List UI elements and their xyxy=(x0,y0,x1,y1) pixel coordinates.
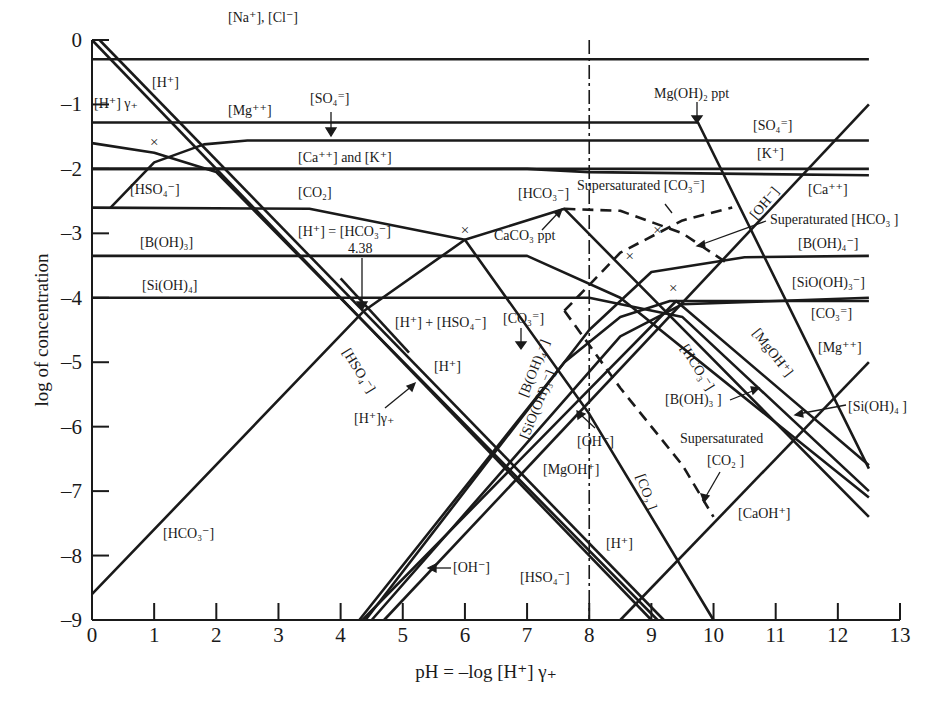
y-tick-label: –3 xyxy=(60,221,82,245)
crossover-marker: × xyxy=(625,248,633,264)
crossover-marker: × xyxy=(669,280,677,296)
x-tick-label: 8 xyxy=(584,623,595,647)
x-tick-label: 7 xyxy=(522,623,533,647)
x-tick-label: 4 xyxy=(335,623,346,647)
curve-line xyxy=(92,256,869,498)
x-tick-label: 13 xyxy=(890,623,911,647)
x-tick-label: 0 xyxy=(87,623,98,647)
label-hco3-top: [HCO₃⁻] xyxy=(518,186,569,201)
x-tick-label: 11 xyxy=(766,623,786,647)
x-tick-label: 2 xyxy=(211,623,222,647)
arrow-co3-mid-head xyxy=(516,342,526,349)
label-caoh: [CaOH⁺] xyxy=(738,506,791,521)
label-oh-mid: [OH⁻] xyxy=(577,434,614,449)
x-tick-label: 1 xyxy=(149,623,160,647)
label-h-gamma-top: [H⁺] γ₊ xyxy=(94,96,138,111)
arrow-h-gamma-mid xyxy=(385,386,412,408)
label-mgoh2-ppt: Mg(OH)₂ ppt xyxy=(654,86,729,102)
y-tick-label: –4 xyxy=(60,286,83,310)
y-tick-label: –6 xyxy=(60,415,82,439)
arrow-so4-head xyxy=(326,128,336,136)
label-hco3-diag: [HCO₃⁻] xyxy=(677,342,717,393)
label-so4-right: [SO₄⁼] xyxy=(753,118,793,133)
label-co3-mid: [CO₃⁼] xyxy=(503,311,544,326)
label-h-top: [H⁺] xyxy=(152,75,179,90)
x-tick-label: 5 xyxy=(398,623,409,647)
arrow-supersat-hco3-head xyxy=(697,241,705,248)
label-sioh4-left: [Si(OH)₄] xyxy=(142,278,197,294)
curve-line xyxy=(620,362,869,620)
label-na-cl: [Na⁺], [Cl⁻] xyxy=(228,10,298,25)
y-tick-label: –1 xyxy=(60,92,82,116)
label-so4-top: [SO₄⁼] xyxy=(310,91,350,106)
x-tick-label: 9 xyxy=(646,623,657,647)
label-hso4-low: [HSO₄⁻] xyxy=(520,570,570,585)
arrow-sioh4-right-head xyxy=(795,410,803,417)
label-mg: [Mg⁺⁺] xyxy=(228,103,272,118)
label-hco3-low: [HCO₃⁻] xyxy=(163,526,214,541)
y-tick-label: –2 xyxy=(60,157,82,181)
y-tick-label: –7 xyxy=(60,479,82,503)
label-supersat-co3: Supersaturated [CO₃⁼] xyxy=(577,178,705,193)
x-tick-label: 12 xyxy=(827,623,848,647)
label-hso4-top: [HSO₄⁻] xyxy=(130,182,180,197)
label-co2-top: [CO₂] xyxy=(298,185,332,200)
x-axis-title: pH = –log [H⁺] γ₊ xyxy=(415,661,557,682)
y-tick-label: –5 xyxy=(60,350,82,374)
label-h-gamma-mid: [H⁺]γ₊ xyxy=(354,411,394,426)
label-h-eq-hco3: [H⁺] = [HCO₃⁻] xyxy=(298,224,391,239)
label-ca-k: [Ca⁺⁺] and [K⁺] xyxy=(298,150,392,165)
label-sioh3-right: [SiO(OH)₃⁻] xyxy=(792,275,865,291)
crossover-marker: × xyxy=(653,222,661,238)
x-tick-label: 10 xyxy=(703,623,724,647)
arrow-supersat-co2 xyxy=(705,472,720,498)
speciation-chart: 0123456789101112130–1–2–3–4–5–6–7–8–9 ××… xyxy=(0,0,946,712)
label-oh-low: [OH⁻] xyxy=(453,560,490,575)
label-supersat-co2-1: Supersaturated xyxy=(680,431,763,446)
label-ca-right: [Ca⁺⁺] xyxy=(808,182,848,197)
x-tick-label: 6 xyxy=(460,623,471,647)
crossover-marker: × xyxy=(461,222,469,238)
y-tick-label: 0 xyxy=(72,28,83,52)
label-co3-right: [CO₃⁼] xyxy=(811,306,852,321)
label-hso4-diag: [HSO₄⁻] xyxy=(339,346,378,396)
label-boh3-left: [B(OH)₃] xyxy=(140,235,193,251)
y-tick-label: –8 xyxy=(60,544,82,568)
y-axis-title: log of concentration xyxy=(31,253,52,407)
label-supersat-co2-2: [CO₂ ] xyxy=(707,453,744,468)
crossover-marker: × xyxy=(150,134,158,150)
curve-line xyxy=(92,208,714,620)
crossover-markers: ××××× xyxy=(150,134,677,296)
label-boh4-right: [B(OH)₄⁻] xyxy=(798,236,858,252)
arrow-supersat-co3 xyxy=(665,204,672,213)
label-mg-right: [Mg⁺⁺] xyxy=(818,340,862,355)
label-h-mid: [H⁺] xyxy=(434,359,461,374)
y-tick-label: –9 xyxy=(60,608,82,632)
arrow-supersat-co2-head xyxy=(701,494,709,502)
label-h-plus-hso4: [H⁺] + [HSO₄⁻] xyxy=(395,315,486,330)
label-sioh4-right: [Si(OH)₄ ] xyxy=(848,399,907,415)
arrow-boh3-right-head xyxy=(751,387,759,394)
label-caco3-ppt: CaCO₃ ppt xyxy=(494,228,555,243)
label-boh3-right: [B(OH)₃ ] xyxy=(665,392,722,408)
x-tick-label: 3 xyxy=(273,623,284,647)
label-h-low: [H⁺] xyxy=(606,536,633,551)
label-4-38: 4.38 xyxy=(348,241,373,256)
label-mgoh-mid: [MgOH⁺] xyxy=(543,462,599,477)
label-supersat-hco3: Superaturated [HCO₃ ] xyxy=(770,212,899,227)
curve-line xyxy=(372,298,869,620)
label-k-right: [K⁺] xyxy=(757,146,784,161)
